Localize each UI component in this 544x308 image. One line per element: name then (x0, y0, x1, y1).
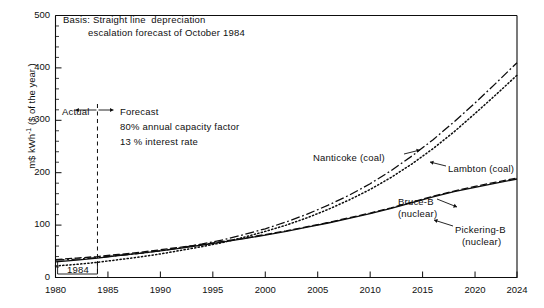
series-label-pickering-b-line2: (nuclear) (462, 236, 501, 247)
series-label-lambton: Lambton (coal) (448, 163, 514, 174)
x-tick-label: 1980 (42, 284, 70, 295)
capacity-factor-label: 80% annual capacity factor (120, 121, 239, 132)
x-tick-label: 1990 (146, 284, 174, 295)
x-tick-label: 2005 (304, 284, 332, 295)
forecast-label: Forecast (120, 106, 159, 117)
x-tick-label: 1985 (94, 284, 122, 295)
chart-canvas (0, 0, 544, 308)
x-tick-label: 2010 (356, 284, 384, 295)
y-tick-label: 200 (0, 166, 50, 177)
annotation-lines-group (58, 104, 457, 278)
x-tick-label: 2000 (251, 284, 279, 295)
interest-rate-label: 13 % interest rate (120, 136, 198, 147)
x-tick-label: 2015 (409, 284, 437, 295)
series-label-bruce-b-line1: Bruce-B (398, 196, 434, 207)
series-curve-pickering-b (56, 178, 518, 260)
series-curve-bruce-b (56, 179, 518, 262)
divider-year-label: 1984 (67, 264, 89, 275)
series-label-bruce-b-line2: (nuclear) (398, 208, 437, 219)
y-tick-label: 500 (0, 9, 50, 20)
y-tick-label: 0 (0, 271, 50, 282)
chart-title-line1: Basis: Straight line depreciation (63, 14, 206, 25)
y-tick-label: 100 (0, 218, 50, 229)
actual-label: Actual (62, 106, 90, 117)
x-tick-label: 2020 (461, 284, 489, 295)
y-tick-label: 400 (0, 61, 50, 72)
series-label-pickering-b-line1: Pickering-B (455, 224, 506, 235)
x-tick-label: 2024 (503, 284, 531, 295)
y-tick-label: 300 (0, 113, 50, 124)
series-label-nanticoke: Nanticoke (coal) (313, 152, 385, 163)
x-tick-label: 1995 (199, 284, 227, 295)
chart-figure: m$ kWh-1 ($ of the year ) 01002003004005… (0, 0, 544, 308)
chart-title-line2: escalation forecast of October 1984 (88, 27, 245, 38)
